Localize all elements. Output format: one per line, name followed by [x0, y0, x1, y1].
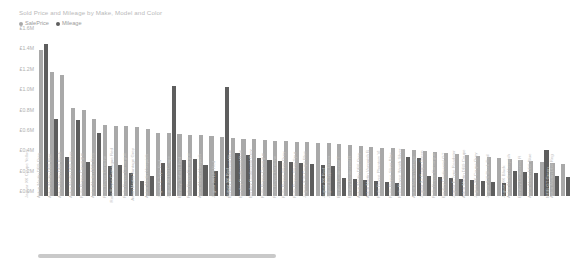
y-axis: £1.6M£1.4M£1.2M£1.0M£0.8M£0.6M£0.4M£0.2M…: [0, 28, 36, 197]
bar-mileage[interactable]: [97, 133, 101, 196]
x-axis-tick-label: Aston Martin DB9 Coupe: [461, 149, 466, 198]
x-axis-tick-label: Rolls Royce Camargue: [431, 153, 436, 198]
x-axis-tick: Aston Martin DB9 Blue: [59, 197, 70, 249]
x-axis-tick-label: Aston Martin DB6 Grey: [356, 153, 361, 198]
y-axis-tick-label: £0.6M: [20, 127, 34, 133]
x-axis-tick-label: Aston Martin Vantage Grey: [130, 148, 135, 198]
x-axis-tick-label: Rolls Royce Corniche: [102, 156, 107, 198]
x-axis-tick-label: Rolls Royce Camargue Red: [109, 148, 114, 198]
bar-mileage[interactable]: [491, 182, 495, 196]
x-axis-tick-label: Aston Martin DB9 Grey: [36, 153, 41, 198]
x-axis-tick-label: Rolls Royce Camargue: [260, 153, 265, 198]
horizontal-scroll-thumb[interactable]: [38, 254, 276, 258]
bar-saleprice[interactable]: [561, 164, 565, 196]
x-axis-tick: MGB GT Green: [550, 197, 561, 249]
x-axis: Jaguar XK Coupe YellowAston Martin DB9 G…: [38, 197, 571, 249]
x-axis-tick: Rolls Royce Camargue: [198, 197, 209, 249]
x-axis-tick: Rolls Royce Camargue: [272, 197, 283, 249]
bar-mileage[interactable]: [342, 178, 346, 196]
x-axis-tick-label: Bentley Continental Grey: [248, 149, 253, 198]
bar-mileage[interactable]: [555, 176, 559, 196]
x-axis-tick-label: Aston Martin DB9 Blue: [527, 154, 532, 198]
x-axis-tick-label: Bentley Turbo R Red: [177, 157, 182, 198]
x-axis-tick: Jaguar XK Coupe Yellow: [38, 197, 49, 249]
x-axis-tick: Jaguar XJ Coupe Green: [432, 197, 443, 249]
x-axis-tick: Aston Martin DB9 Black: [70, 197, 81, 249]
x-axis-tick: Rolls Royce Camargue Red: [123, 197, 134, 249]
x-axis-tick: Aston Martin Vantage Grey: [145, 197, 156, 249]
x-axis-tick-label: Rolls Royce Corniche: [272, 156, 277, 198]
bar-mileage[interactable]: [172, 86, 176, 196]
x-axis-tick-label: Bentley Continental T: [336, 156, 341, 198]
x-axis-tick: Rolls Royce Wraith Silver: [411, 197, 422, 249]
y-axis-tick-label: £1.0M: [20, 86, 34, 92]
bar-saleprice[interactable]: [135, 127, 139, 196]
x-axis-tick: Rolls Royce Silver Grey: [294, 197, 305, 249]
x-axis-tick: Rolls Royce Silver Blue: [400, 197, 411, 249]
x-axis-tick: Jaguar XJ6 Black Red: [496, 197, 507, 249]
x-axis-tick-label: Jaguar XK Coupe Yellow: [24, 150, 29, 198]
x-axis-tick: Aston Martin DB6 Grey: [368, 197, 379, 249]
x-axis-tick-label: Jaguar XJ6 Black Red: [485, 155, 490, 198]
x-axis-tick-label: Jaguar XJ Coupe Green: [419, 151, 424, 198]
x-axis-tick: Aston Martin Vantage: [422, 197, 433, 249]
bar-saleprice[interactable]: [114, 126, 118, 196]
legend-item-mileage[interactable]: Mileage: [56, 20, 82, 27]
bar-mileage[interactable]: [481, 181, 485, 196]
x-axis-tick: Jaguar E-Type Roadster: [464, 197, 475, 249]
bar-mileage[interactable]: [406, 157, 410, 196]
bar-mileage[interactable]: [150, 176, 154, 196]
bar-mileage[interactable]: [310, 164, 314, 196]
x-axis-tick-label: Rolls Royce Silver Grey: [281, 152, 286, 198]
x-axis-tick-label: Aston Martin Vanquish: [144, 154, 149, 198]
x-axis-tick: Rolls Royce Camargue: [134, 197, 145, 249]
bar-mileage[interactable]: [513, 171, 517, 196]
legend-dot-icon: [56, 22, 60, 26]
x-axis-tick-label: Rolls Royce Camargue: [186, 153, 191, 198]
bar-saleprice[interactable]: [220, 137, 224, 196]
x-axis-tick-label: Aston Martin Vanquish: [506, 154, 511, 198]
chart-title: Sold Price and Mileage by Make, Model an…: [19, 9, 162, 17]
x-axis-tick: Rolls Royce Camargue: [443, 197, 454, 249]
x-axis-tick: Aston Martin Vanquish: [209, 197, 220, 249]
x-axis-tick-label: Aston Martin DB9 Silver: [68, 151, 73, 198]
x-axis-tick-label: Bentley Continental Blue: [227, 150, 232, 198]
y-axis-tick-label: £1.4M: [20, 45, 34, 51]
bar-mileage[interactable]: [267, 160, 271, 196]
x-axis-tick: Bentley Continental Blue: [240, 197, 251, 249]
bar-saleprice[interactable]: [540, 162, 544, 196]
bar-mileage[interactable]: [534, 173, 538, 196]
x-axis-tick: Rolls Royce Silver Spur: [304, 197, 315, 249]
y-axis-tick-label: £0.8M: [20, 107, 34, 113]
bar-mileage[interactable]: [566, 177, 570, 196]
x-axis-tick: Bentley Continental Red: [251, 197, 262, 249]
x-axis-tick: Aston Martin Vanquish B: [379, 197, 390, 249]
x-axis-tick-label: Rolls Royce Silver Spur: [292, 152, 297, 198]
x-axis-tick: Aston Martin DB5 Grey: [102, 197, 113, 249]
x-axis-tick-label: Bentley Continental GT: [441, 153, 446, 198]
x-axis-tick: Aston Martin DB9 Coupe: [475, 197, 486, 249]
x-axis-tick: Jaguar E-Type Red: [166, 197, 177, 249]
y-axis-tick-label: £1.6M: [20, 25, 34, 31]
x-axis-tick: Bentley Continental R: [358, 197, 369, 249]
x-axis-tick: Jaguar XK Coupe Grey: [486, 197, 497, 249]
x-axis-tick: Aston Martin DB9 Grey: [49, 197, 60, 249]
x-axis-tick-label: Jaguar E-Type Green: [326, 156, 331, 198]
x-axis-tick-label: Jaguar XK150 Coupe: [166, 156, 171, 198]
x-axis-tick: Bentley Continental R: [528, 197, 539, 249]
x-axis-tick-label: Aston Martin Vanquish: [197, 154, 202, 198]
bar-mileage[interactable]: [203, 165, 207, 196]
x-axis-tick: Rolls Royce Camargue: [91, 197, 102, 249]
x-axis-tick: Jaguar XK120 Red: [219, 197, 230, 249]
x-axis-tick-label: Aston Martin DB9 Reg: [549, 154, 554, 198]
x-axis-tick-label: Aston Martin DB9 Blue: [47, 154, 52, 198]
x-axis-tick-label: Aston Martin DB9 Black: [57, 152, 62, 198]
x-axis-tick-label: Jaguar XK120 Red: [211, 161, 216, 198]
bar-group[interactable]: [560, 33, 571, 196]
bar-mileage[interactable]: [331, 166, 335, 196]
x-axis-tick-label: Rolls Royce Phantom VI: [376, 150, 381, 198]
x-axis-tick: Jaguar XK Red: [230, 197, 241, 249]
bar-mileage[interactable]: [140, 181, 144, 196]
bar-group[interactable]: [134, 33, 145, 196]
bar-saleprice[interactable]: [316, 143, 320, 196]
